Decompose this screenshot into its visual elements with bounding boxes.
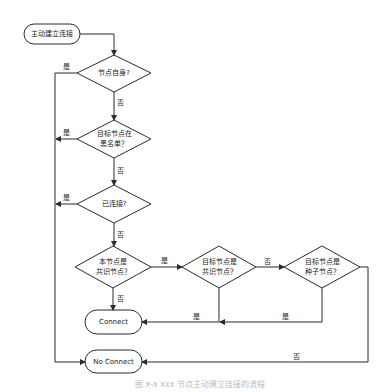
figure-caption: 图 x-x xxx 节点主动建立连接的流程 — [80, 380, 320, 392]
edge-start-to-is-self — [80, 34, 114, 55]
edge-label-target-consensus-no: 否 — [264, 258, 271, 266]
edge-is-self-yes — [55, 73, 85, 362]
edge-label-self-consensus-no: 否 — [117, 295, 124, 303]
flowchart-svg — [0, 0, 388, 392]
flowchart-canvas: 主动建立连接 节点自身? 目标节点在 黑名单？ 已连接? 本节点是 共识节点？ … — [0, 0, 388, 392]
node-target-consensus-label: 目标节点是 共识节点？ — [185, 257, 253, 277]
edge-label-self-consensus-yes: 是 — [161, 257, 168, 265]
node-self-consensus-label: 本节点是 共识节点？ — [79, 257, 147, 277]
node-no-connect-label: No Connect — [85, 350, 142, 373]
edge-label-blacklist-no: 否 — [117, 167, 124, 175]
node-connect-label: Connect — [85, 310, 142, 334]
edge-target-seed-yes — [220, 288, 322, 322]
node-blacklist-label: 目标节点在 黑名单？ — [80, 129, 148, 149]
edge-label-is-self-no: 否 — [117, 99, 124, 107]
edge-label-connected-no: 否 — [117, 231, 124, 239]
node-start-label: 主动建立连接 — [24, 24, 80, 44]
edge-label-target-seed-yes: 是 — [282, 313, 289, 321]
edge-label-blacklist-yes: 是 — [63, 129, 70, 137]
edge-target-consensus-yes — [142, 288, 219, 322]
edge-label-is-self-yes: 是 — [63, 63, 70, 71]
edge-label-connected-yes: 是 — [63, 194, 70, 202]
node-target-seed-label: 目标节点是 种子节点？ — [288, 257, 356, 277]
edge-label-target-consensus-yes: 是 — [193, 313, 200, 321]
edge-label-target-seed-no: 否 — [293, 353, 300, 361]
node-is-self-label: 节点自身? — [80, 63, 148, 83]
node-connected-label: 已连接? — [80, 194, 148, 214]
